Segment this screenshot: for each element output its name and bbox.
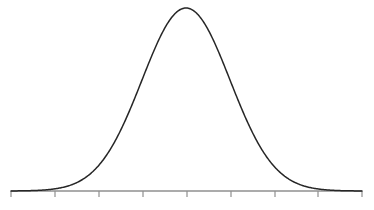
plot-canvas xyxy=(0,0,374,210)
normal-distribution-figure xyxy=(0,0,374,210)
plot-background xyxy=(0,0,374,210)
